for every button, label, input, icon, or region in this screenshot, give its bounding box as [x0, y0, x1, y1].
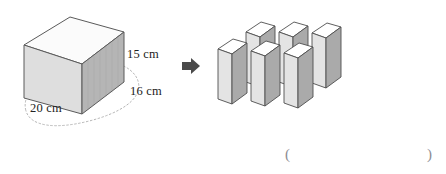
large-cuboid: [24, 17, 124, 114]
answer-paren-open: (: [285, 146, 290, 163]
block-back-right: [312, 23, 341, 88]
dimension-label-depth: 16 cm: [130, 84, 162, 99]
right-arrow-icon: [182, 58, 200, 74]
dimension-label-width: 20 cm: [30, 101, 62, 116]
figure-container: 15 cm 16 cm 20 cm ( ): [0, 0, 446, 174]
figure-illustration: [0, 0, 446, 174]
block-front-right: [284, 43, 313, 108]
answer-paren-close: ): [427, 146, 432, 163]
block-front-middle: [251, 41, 280, 106]
dimension-label-height: 15 cm: [127, 47, 159, 62]
block-front-left: [218, 39, 247, 104]
